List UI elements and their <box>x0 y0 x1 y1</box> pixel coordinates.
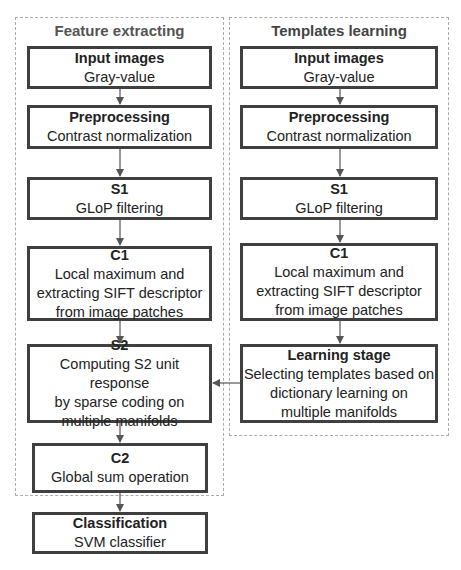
arrows-layer <box>0 0 461 570</box>
